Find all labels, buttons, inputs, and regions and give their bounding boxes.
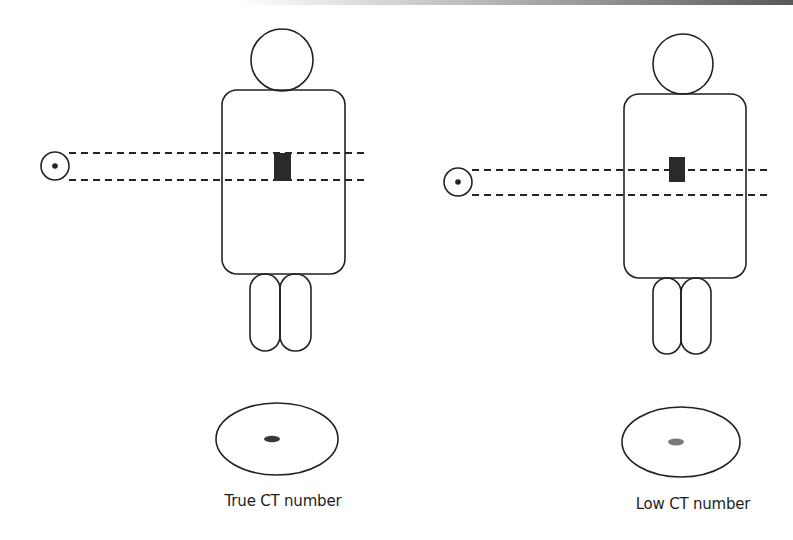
panel-true-ct-number bbox=[41, 29, 367, 475]
label-low-ct-number: Low CT number bbox=[636, 495, 751, 513]
patient-leg-left bbox=[653, 278, 681, 354]
lesion-object bbox=[274, 153, 291, 181]
patient-torso bbox=[624, 94, 746, 278]
lesion-object bbox=[669, 157, 685, 182]
patient-head bbox=[251, 29, 313, 91]
panel-low-ct-number bbox=[444, 34, 767, 477]
ct-slice-lesion-spot bbox=[668, 439, 684, 446]
patient-leg-left bbox=[250, 274, 280, 351]
label-true-ct-number: True CT number bbox=[225, 492, 342, 510]
xray-source-focal-dot bbox=[455, 179, 461, 185]
patient-head bbox=[653, 34, 713, 94]
patient-leg-right bbox=[681, 278, 711, 354]
ct-partial-volume-diagram bbox=[0, 0, 793, 540]
xray-source-focal-dot bbox=[52, 163, 58, 169]
ct-slice-lesion-spot bbox=[264, 436, 280, 442]
patient-torso bbox=[222, 90, 345, 274]
patient-leg-right bbox=[280, 274, 311, 351]
